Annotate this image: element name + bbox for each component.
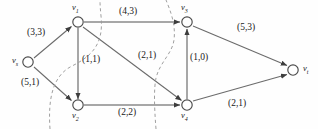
node-label-vs: vs (12, 55, 18, 67)
node-vs[interactable] (23, 57, 33, 67)
cut-curve-right (155, 0, 175, 129)
node-vt[interactable] (288, 65, 298, 75)
figure-canvas: vs v1 v2 v3 v4 vt (3,3) (5,1) (4,3) (1,1… (0, 0, 318, 129)
edge-label-vs-v1: (3,3) (27, 27, 45, 37)
node-v3[interactable] (182, 17, 192, 27)
edge-label-v2-v4: (2,2) (118, 107, 136, 117)
edge-label-vs-v2: (5,1) (21, 77, 39, 87)
cut-curves (50, 0, 175, 129)
node-circles (23, 17, 298, 110)
node-v1[interactable] (73, 17, 83, 27)
edge-vs-v2 (34, 67, 72, 101)
node-label-v1: v1 (72, 2, 79, 14)
edge-lines (34, 22, 287, 105)
edge-label-v1-v2: (1,1) (82, 54, 100, 64)
node-v2[interactable] (73, 100, 83, 110)
network-flow-graph (0, 0, 318, 129)
node-label-v3: v3 (181, 2, 188, 14)
edge-label-v1-v3: (4,3) (119, 6, 137, 16)
node-label-vt: vt (303, 63, 308, 75)
edge-label-v4-v3: (1,0) (190, 52, 208, 62)
node-label-v4: v4 (181, 110, 188, 122)
edge-label-v3-vt: (5,3) (237, 22, 255, 32)
node-label-v2: v2 (72, 110, 79, 122)
edge-label-v4-vt: (2,1) (228, 98, 246, 108)
edge-label-v1-v4: (2,1) (138, 50, 156, 60)
node-v4[interactable] (182, 100, 192, 110)
